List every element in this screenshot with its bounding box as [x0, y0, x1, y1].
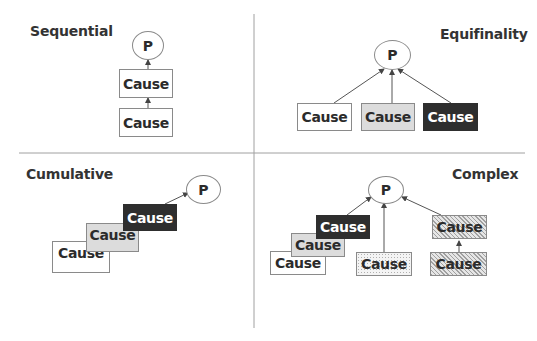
- complex-title: Complex: [452, 166, 518, 182]
- sequential-title: Sequential: [30, 23, 113, 39]
- equifinality-outcome-p: P: [374, 40, 411, 70]
- causation-types-diagram: Sequential P Cause Cause Equifinality P …: [0, 0, 537, 341]
- cumulative-cause-black: Cause: [123, 204, 177, 231]
- arrow-cum-to-p: [165, 193, 188, 204]
- sequential-cause-1: Cause: [119, 69, 173, 98]
- complex-cause-hatched-bottom: Cause: [430, 252, 487, 276]
- arrow-cx-black-to-p: [347, 197, 371, 215]
- complex-cause-hatched-top: Cause: [432, 215, 487, 239]
- equifinality-cause-gray: Cause: [361, 103, 415, 131]
- arrow-cx-hatched-to-p: [402, 197, 441, 215]
- equifinality-cause-white: Cause: [297, 103, 352, 131]
- complex-outcome-p: P: [368, 176, 404, 204]
- complex-cause-black: Cause: [316, 215, 370, 239]
- cumulative-outcome-p: P: [186, 175, 221, 204]
- arrow-eq-black-to-p: [398, 69, 451, 103]
- complex-cause-dotted: Cause: [356, 252, 412, 276]
- cumulative-title: Cumulative: [26, 166, 113, 182]
- sequential-cause-2: Cause: [119, 108, 173, 137]
- arrow-eq-white-to-p: [334, 69, 384, 103]
- sequential-outcome-p: P: [132, 31, 164, 60]
- equifinality-title: Equifinality: [440, 26, 528, 42]
- equifinality-cause-black: Cause: [423, 103, 478, 131]
